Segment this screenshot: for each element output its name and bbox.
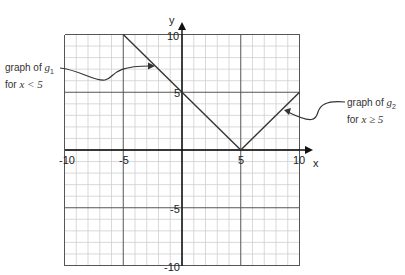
y-axis-label: y [169,14,175,26]
annotation-text: graph of [5,62,44,73]
y-tick-label: -5 [170,203,180,215]
y-tick-label: 5 [174,87,180,99]
graph-g2 [241,92,300,150]
y-tick-label: 10 [167,30,179,42]
g1-arrowhead-icon [148,63,155,70]
annotation-text: for [347,114,361,125]
domain-condition: x ≥ 5 [361,113,383,125]
annotation-text: for [5,79,19,90]
y-tick-label: -10 [164,261,180,273]
y-axis-arrow-icon [178,22,186,30]
annotation-arrows [60,63,345,120]
annotation-text: graph of [347,97,386,108]
g2-callout-arrow [288,102,345,120]
coordinate-plane: -10 -5 5 10 10 5 -5 -10 x y [0,0,405,275]
x-axis-label: x [313,157,319,169]
x-tick-label: -10 [59,154,75,166]
g1-callout-arrow [60,66,150,80]
domain-condition: x < 5 [19,78,42,90]
g1-annotation: graph of g1 for x < 5 [5,61,54,91]
function-subscript: 2 [392,103,396,110]
x-axis-arrow-icon [305,146,313,154]
x-tick-label: -5 [119,154,129,166]
g2-annotation: graph of g2 for x ≥ 5 [347,96,396,126]
function-subscript: 1 [50,68,54,75]
x-tick-label: 5 [238,154,244,166]
x-tick-label: 10 [293,154,305,166]
